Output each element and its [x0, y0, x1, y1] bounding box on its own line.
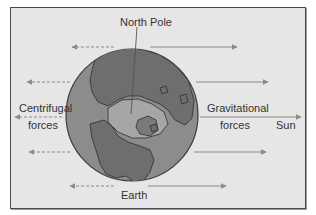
sun-label: Sun: [276, 119, 296, 131]
centrifugal-forces-label: forces: [28, 119, 58, 131]
earth-label: Earth: [121, 189, 147, 201]
gravitational-label: Gravitational: [207, 102, 269, 114]
earth-globe-icon: [66, 27, 198, 182]
north-pole-label: North Pole: [120, 16, 172, 28]
centrifugal-label: Centrifugal: [19, 102, 72, 114]
gravitational-forces-label: forces: [220, 119, 250, 131]
